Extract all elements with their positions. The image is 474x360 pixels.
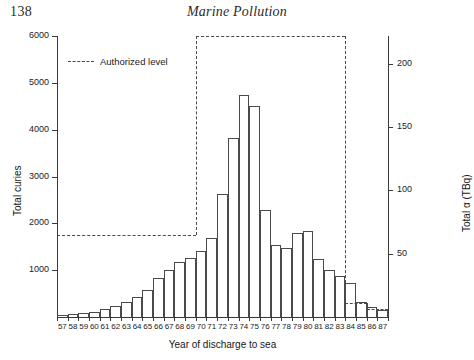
x-tick-64 — [132, 317, 133, 321]
x-tick-label-77: 77 — [271, 323, 280, 331]
authorized-level-segment-70 — [196, 36, 345, 37]
y-tick-left-3000 — [52, 177, 57, 178]
x-tick-60 — [89, 317, 90, 321]
x-tick-80 — [303, 317, 304, 321]
y-tick-left-4000 — [52, 130, 57, 131]
bar-71 — [206, 238, 217, 317]
x-tick-86 — [367, 317, 368, 321]
legend-dashed-line-icon — [68, 61, 94, 62]
x-tick-label-86: 86 — [368, 323, 377, 331]
x-tick-label-73: 73 — [229, 323, 238, 331]
x-tick-66 — [153, 317, 154, 321]
x-tick-label-76: 76 — [261, 323, 270, 331]
bar-61 — [100, 309, 111, 317]
x-tick-57 — [57, 317, 58, 321]
x-tick-label-87: 87 — [378, 323, 387, 331]
x-tick-82 — [324, 317, 325, 321]
x-tick-label-69: 69 — [186, 323, 195, 331]
y-tick-label-left-2000: 2000 — [29, 218, 49, 227]
x-tick-58 — [68, 317, 69, 321]
x-tick-label-83: 83 — [335, 323, 344, 331]
bar-59 — [78, 313, 89, 317]
x-tick-72 — [217, 317, 218, 321]
x-tick-85 — [356, 317, 357, 321]
bar-83 — [335, 276, 346, 317]
bar-77 — [271, 245, 282, 317]
y-tick-label-right-50: 50 — [397, 249, 407, 258]
x-tick-76 — [260, 317, 261, 321]
bar-62 — [110, 306, 121, 317]
y-tick-right-150 — [388, 127, 393, 128]
bar-70 — [196, 251, 207, 318]
x-tick-77 — [271, 317, 272, 321]
x-axis — [57, 317, 388, 318]
bar-72 — [217, 194, 228, 317]
bar-65 — [142, 290, 153, 317]
authorized-level-segment-57 — [57, 235, 196, 236]
x-tick-label-71: 71 — [207, 323, 216, 331]
y-tick-label-left-4000: 4000 — [29, 125, 49, 134]
y-axis-left — [57, 36, 58, 317]
authorized-level-step-84 — [345, 36, 346, 303]
y-tick-label-right-200: 200 — [397, 59, 412, 68]
x-tick-label-58: 58 — [69, 323, 78, 331]
x-tick-label-61: 61 — [101, 323, 110, 331]
x-tick-label-57: 57 — [58, 323, 67, 331]
x-tick-78 — [281, 317, 282, 321]
x-tick-end — [388, 317, 389, 321]
bar-66 — [153, 278, 164, 317]
y-tick-label-left-5000: 5000 — [29, 78, 49, 87]
legend-label: Authorized level — [100, 56, 168, 67]
y-tick-label-right-150: 150 — [397, 122, 412, 131]
x-tick-label-59: 59 — [79, 323, 88, 331]
bar-69 — [185, 258, 196, 317]
y-axis-right — [388, 36, 389, 317]
bar-75 — [249, 106, 260, 317]
x-tick-label-75: 75 — [250, 323, 259, 331]
x-tick-62 — [110, 317, 111, 321]
y-tick-left-1000 — [52, 270, 57, 271]
x-tick-68 — [174, 317, 175, 321]
x-tick-label-68: 68 — [175, 323, 184, 331]
x-tick-label-74: 74 — [239, 323, 248, 331]
x-tick-label-65: 65 — [143, 323, 152, 331]
bar-78 — [281, 248, 292, 317]
bar-67 — [164, 270, 175, 317]
x-tick-63 — [121, 317, 122, 321]
x-tick-79 — [292, 317, 293, 321]
x-tick-61 — [100, 317, 101, 321]
x-tick-65 — [142, 317, 143, 321]
x-tick-label-84: 84 — [346, 323, 355, 331]
bar-60 — [89, 312, 100, 317]
bar-64 — [132, 297, 143, 317]
x-tick-label-78: 78 — [282, 323, 291, 331]
y-axis-label-right: Total α (TBq) — [461, 175, 472, 232]
x-tick-83 — [335, 317, 336, 321]
running-head: Marine Pollution — [0, 4, 474, 20]
bar-82 — [324, 270, 335, 317]
x-tick-label-81: 81 — [314, 323, 323, 331]
y-tick-label-left-6000: 6000 — [29, 31, 49, 40]
y-tick-left-6000 — [52, 36, 57, 37]
x-tick-81 — [313, 317, 314, 321]
bar-85 — [356, 302, 367, 317]
bar-57 — [57, 315, 68, 317]
x-tick-67 — [164, 317, 165, 321]
bar-80 — [303, 231, 314, 317]
x-axis-label: Year of discharge to sea — [57, 339, 388, 350]
authorized-level-step-70 — [196, 36, 197, 235]
x-tick-69 — [185, 317, 186, 321]
y-tick-right-50 — [388, 254, 393, 255]
y-tick-label-left-1000: 1000 — [29, 265, 49, 274]
x-tick-87 — [377, 317, 378, 321]
bar-74 — [239, 95, 250, 317]
x-tick-label-85: 85 — [357, 323, 366, 331]
x-tick-71 — [206, 317, 207, 321]
x-tick-label-60: 60 — [90, 323, 99, 331]
y-tick-label-left-3000: 3000 — [29, 172, 49, 181]
bar-76 — [260, 210, 271, 317]
bar-73 — [228, 138, 239, 317]
bar-79 — [292, 233, 303, 317]
x-tick-label-63: 63 — [122, 323, 131, 331]
x-tick-75 — [249, 317, 250, 321]
